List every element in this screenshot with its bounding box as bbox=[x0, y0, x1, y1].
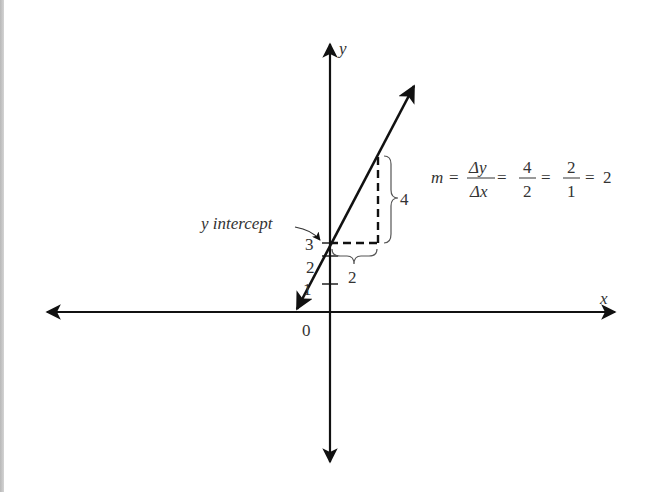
formula-lhs: m bbox=[431, 168, 443, 187]
formula-frac3-num: 2 bbox=[567, 158, 576, 177]
x-axis-label: x bbox=[599, 289, 608, 308]
run-brace bbox=[332, 249, 377, 264]
formula-frac3-den: 1 bbox=[567, 182, 576, 201]
formula-eq-1: = bbox=[449, 168, 459, 187]
origin-label: 0 bbox=[302, 321, 311, 340]
formula-frac2-num: 4 bbox=[523, 158, 532, 177]
y-axis-label: y bbox=[337, 39, 347, 58]
slope-diagram: y x 0 1 2 3 y intercept 4 2 m = Δy Δx = … bbox=[0, 0, 646, 492]
intercept-label-text: y intercept bbox=[199, 214, 274, 233]
formula-eq-2: = bbox=[497, 168, 507, 187]
rise-label: 4 bbox=[400, 190, 409, 209]
formula-eq-3: = bbox=[541, 168, 551, 187]
formula-frac1-den: Δx bbox=[469, 182, 488, 201]
formula-result: 2 bbox=[603, 168, 612, 187]
formula-frac1-num: Δy bbox=[468, 158, 487, 177]
y-tick-label-1: 1 bbox=[303, 280, 312, 299]
slope-formula: m = Δy Δx = 4 2 = 2 1 = 2 bbox=[431, 158, 612, 201]
rise-brace bbox=[384, 156, 398, 243]
formula-frac2-den: 2 bbox=[523, 182, 532, 201]
run-label: 2 bbox=[348, 268, 357, 287]
y-tick-label-2: 2 bbox=[306, 258, 315, 277]
intercept-label: y intercept bbox=[199, 214, 274, 233]
y-tick-label-3: 3 bbox=[305, 235, 314, 254]
formula-eq-4: = bbox=[585, 168, 595, 187]
